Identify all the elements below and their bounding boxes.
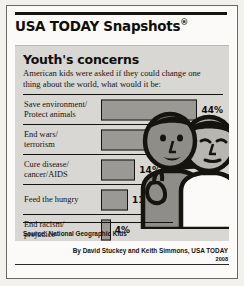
masthead-brand: USA TODAY Snapshots xyxy=(15,18,180,34)
chart-bar xyxy=(101,129,153,150)
chart-row-label: Save environment/Protect animals xyxy=(24,99,96,120)
masthead-title: USA TODAY Snapshots® xyxy=(15,18,227,34)
content-panel: Youth's concerns American kids were aske… xyxy=(15,45,229,241)
chart-row-label: Cure disease/cancer/AIDS xyxy=(24,159,96,180)
chart-row: Cure disease/cancer/AIDS14% xyxy=(23,154,223,184)
chart-row: Save environment/Protect animals44% xyxy=(23,94,223,124)
chart-bar xyxy=(101,99,197,120)
bottom-rule xyxy=(15,264,229,265)
source-note: Source: National Geographic Kids xyxy=(23,230,127,237)
masthead: USA TODAY Snapshots® xyxy=(15,12,227,34)
source-rule xyxy=(23,222,173,223)
page-title: Youth's concerns xyxy=(23,52,139,67)
chart-bar-value: 11% xyxy=(132,195,154,205)
byline-year: 2008 xyxy=(73,255,228,263)
chart-row-label: Feed the hungry xyxy=(24,194,96,204)
chart-bar xyxy=(101,189,128,210)
chart-bar-value: 21% xyxy=(157,135,179,145)
chart-bar-value: 44% xyxy=(201,105,223,115)
snapshot-frame: USA TODAY Snapshots® Youth's concerns Am… xyxy=(6,5,238,279)
chart-bar xyxy=(101,159,135,180)
chart-row-label: End wars/terrorism xyxy=(24,129,96,150)
registered-mark-icon: ® xyxy=(180,18,188,27)
chart-row: End wars/terrorism21% xyxy=(23,124,223,154)
chart-row: Feed the hungry11% xyxy=(23,184,223,214)
byline-credit: By David Stuckey and Keith Simmons, USA … xyxy=(73,246,228,255)
bar-chart: Save environment/Protect animals44%End w… xyxy=(23,94,223,241)
snapshot-page: USA TODAY Snapshots® Youth's concerns Am… xyxy=(0,0,244,286)
byline: By David Stuckey and Keith Simmons, USA … xyxy=(73,246,228,263)
chart-bar-value: 14% xyxy=(139,165,161,175)
chart-subtitle: American kids were asked if they could c… xyxy=(23,68,219,90)
masthead-rule xyxy=(15,12,227,15)
